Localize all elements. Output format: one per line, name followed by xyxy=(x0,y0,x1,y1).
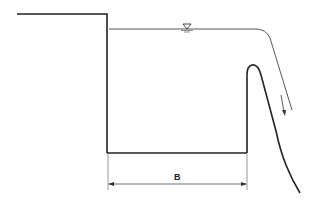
dimension-arrow-right-icon xyxy=(241,182,247,186)
water-surface xyxy=(109,29,292,110)
water-level-icon xyxy=(181,24,193,32)
upstream-shelf-and-left-wall xyxy=(17,14,107,153)
width-label: B xyxy=(174,172,181,182)
weir-wall xyxy=(247,65,300,193)
dimension-arrow-left-icon xyxy=(108,182,114,186)
weir-diagram xyxy=(0,0,318,211)
flow-arrow-icon xyxy=(281,95,286,116)
